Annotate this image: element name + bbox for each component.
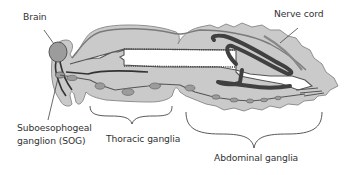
- thoracic-bracket: [90, 106, 172, 124]
- brain-leader-line: [44, 30, 54, 44]
- sog-label-line2: ganglion (SOG): [17, 135, 86, 146]
- brain-ganglion: [49, 42, 67, 62]
- abdominal-ganglia-label: Abdominal ganglia: [214, 152, 298, 163]
- abdominal-bracket: [186, 112, 322, 148]
- nerve-cord-label: Nerve cord: [274, 8, 323, 19]
- insect-nervous-system-diagram: [0, 0, 355, 175]
- thoracic-ganglia-label: Thoracic ganglia: [106, 133, 180, 144]
- brain-label: Brain: [23, 11, 47, 22]
- sog-label-line1: Suboesophogeal: [17, 122, 92, 133]
